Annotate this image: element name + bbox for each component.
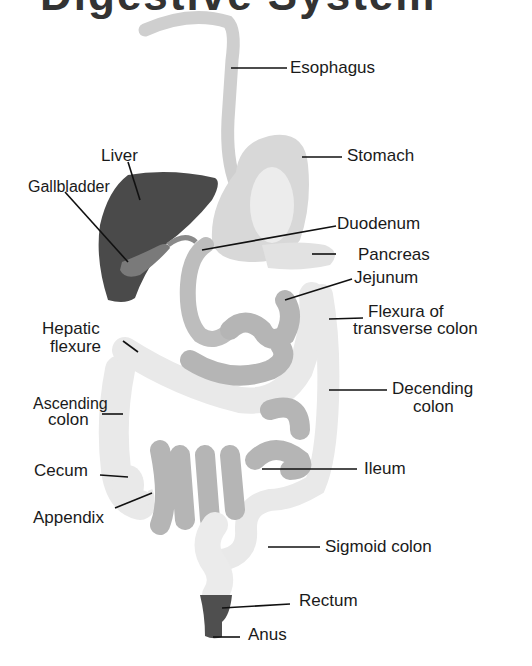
label-appendix: Appendix	[33, 509, 104, 527]
label-stomach: Stomach	[347, 147, 414, 165]
stomach-inner-shape	[250, 167, 294, 243]
label-sigmoid-colon: Sigmoid colon	[325, 538, 432, 556]
label-descending-line2: colon	[413, 398, 454, 416]
label-pancreas: Pancreas	[358, 246, 430, 264]
esophagus-shape	[145, 18, 236, 186]
label-gallbladder: Gallbladder	[28, 178, 110, 196]
label-hepatic-line1: Hepatic	[42, 320, 100, 338]
label-descending-line1: Decending	[392, 380, 473, 398]
label-rectum: Rectum	[299, 592, 358, 610]
label-flexura-line2: transverse colon	[353, 320, 478, 338]
label-anus: Anus	[248, 626, 287, 644]
label-ileum: Ileum	[364, 460, 406, 478]
sigmoid-colon-shape	[208, 525, 221, 595]
pancreas-shape	[262, 243, 335, 270]
label-cecum: Cecum	[34, 462, 88, 480]
label-duodenum: Duodenum	[337, 215, 420, 233]
label-ascending-line2: colon	[48, 411, 89, 429]
label-esophagus: Esophagus	[290, 59, 375, 77]
label-jejunum: Jejunum	[354, 269, 418, 287]
label-liver: Liver	[101, 147, 138, 165]
rectum-shape	[200, 595, 232, 638]
label-hepatic-line2: flexure	[50, 338, 101, 356]
liver-shape	[99, 172, 218, 302]
